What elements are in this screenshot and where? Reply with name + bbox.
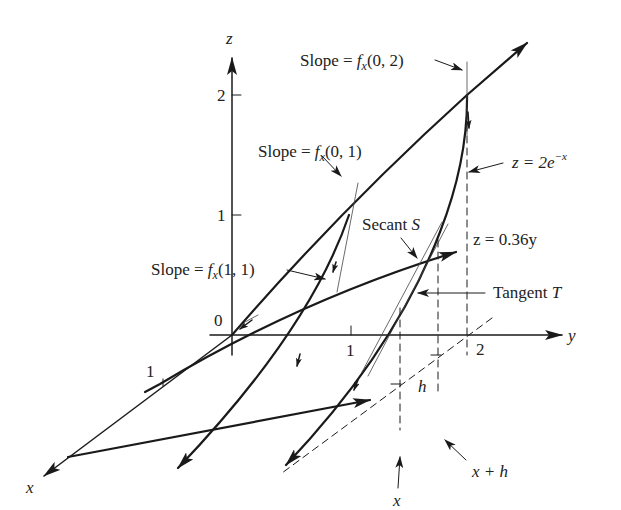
x-tick-label-1: 1 [146,362,155,381]
line-slice-x2 [68,400,370,457]
leader-x [398,457,400,488]
label-curve-exp: z = 2e−x [511,150,567,172]
label-plane-line: z = 0.36y [473,230,537,249]
dashed-base-line [282,318,492,473]
leader-curve-exp [469,163,503,172]
secant-line-S [362,222,442,372]
label-slope-0-2: Slope = fx(0, 2) [300,51,404,73]
curve-x0-extension [467,43,527,95]
label-tangent: Tangent T [493,283,563,302]
curve-y1-trace [178,215,349,468]
y-tick-label-1: 1 [346,341,355,360]
x-axis-label: x [25,478,34,497]
y-axis-label: y [566,326,576,345]
label-x-plus-h: x + h [471,462,508,481]
leader-slope-0-2 [435,60,462,70]
leader-secant [401,238,417,258]
z-axis [232,58,241,355]
leader-x-plus-h [445,440,466,460]
label-h: h [418,377,427,396]
label-slope-1-1: Slope = fx(1, 1) [151,260,255,282]
z-axis-label: z [225,29,233,48]
leader-slope-1-1 [287,270,325,279]
label-slope-0-1: Slope = fx(0, 1) [258,142,362,164]
y-tick-label-2: 2 [476,340,485,359]
z-tick-label-0: 0 [214,311,223,330]
z-tick-label-1: 1 [217,206,226,225]
partial-derivative-diagram: z 2 1 0 y 1 2 x 1 [0,0,621,510]
x-axis [44,335,232,476]
label-x: x [392,491,401,510]
z-tick-label-2: 2 [217,86,226,105]
label-secant: Secant S [362,215,421,234]
